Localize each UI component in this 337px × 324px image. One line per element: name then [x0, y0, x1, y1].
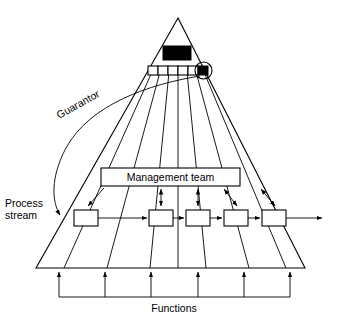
senior-manager-box-1	[148, 66, 158, 75]
link-mgmt-box-1	[88, 188, 104, 206]
process-box-2	[149, 210, 173, 226]
senior-manager-box-4	[178, 66, 188, 75]
functions-bar	[59, 272, 290, 297]
senior-manager-box-2	[158, 66, 168, 75]
senior-manager-box-5	[188, 66, 198, 75]
senior-manager-box-3	[168, 66, 178, 75]
process-box-3	[186, 210, 210, 226]
management-team-label: Management team	[127, 171, 215, 183]
functions-label: Functions	[151, 302, 197, 314]
management-process-links	[88, 188, 275, 206]
senior-manager-row	[148, 62, 212, 79]
process-box-4	[224, 210, 248, 226]
organization-pyramid-diagram: Guarantor Process stream Management team	[0, 0, 337, 324]
process-box-1	[74, 210, 98, 226]
link-mgmt-box-4	[224, 189, 237, 206]
senior-manager-box-6-highlighted	[198, 66, 208, 75]
diagram-canvas: Guarantor Process stream Management team	[0, 0, 337, 324]
process-stream-label-line2: stream	[5, 209, 37, 221]
process-stream-label-line1: Process	[5, 197, 43, 209]
process-box-5	[262, 210, 286, 226]
executive-block	[163, 46, 191, 60]
link-mgmt-box-5	[261, 189, 275, 206]
